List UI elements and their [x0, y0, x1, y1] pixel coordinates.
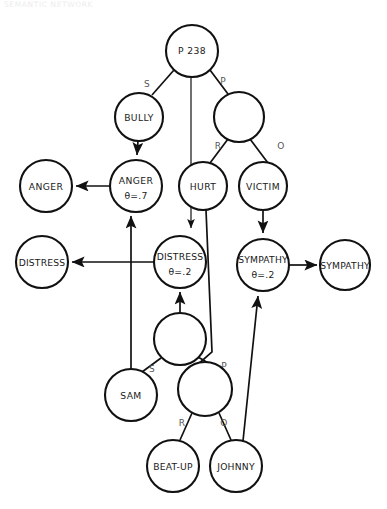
edge-bully-anger: [137, 141, 138, 155]
node-anger-left[interactable]: ANGER: [20, 160, 72, 212]
edge-label-root-p: P: [220, 76, 226, 86]
node-beatup[interactable]: BEAT-UP: [147, 440, 199, 492]
node-anger-theta-label: ANGER: [119, 175, 154, 186]
node-sympathy-theta[interactable]: SYMPATHY θ=.2: [237, 239, 289, 291]
node-anger-theta-circle[interactable]: [110, 160, 162, 212]
node-johnny[interactable]: JOHNNY: [210, 440, 262, 492]
node-bully[interactable]: BULLY: [115, 93, 163, 141]
edge-label-prop3-o: O: [220, 418, 227, 428]
node-anger-theta-sub: θ=.7: [125, 190, 148, 201]
node-hurt[interactable]: HURT: [179, 162, 227, 210]
node-prop3[interactable]: [178, 362, 232, 416]
node-beatup-label: BEAT-UP: [153, 461, 193, 472]
node-anger-left-label: ANGER: [29, 181, 64, 192]
node-distress-theta-sub: θ=.2: [169, 266, 192, 277]
node-victim-label: VICTIM: [246, 181, 280, 192]
node-distress-left-label: DISTRESS: [19, 257, 66, 268]
node-prop1-circle[interactable]: [214, 92, 264, 142]
node-root-label: P 238: [178, 45, 206, 56]
node-distress-left[interactable]: DISTRESS: [16, 236, 68, 288]
node-layer: P 238 BULLY ANGER ANGER θ=.7 HURT: [16, 25, 370, 492]
edge-root-bully: [152, 70, 174, 95]
node-johnny-label: JOHNNY: [216, 461, 255, 472]
node-sympathy-right[interactable]: SYMPATHY: [320, 240, 370, 290]
node-prop2-circle[interactable]: [154, 313, 206, 365]
edge-johnny-sympathy: [243, 296, 258, 441]
node-sam[interactable]: SAM: [105, 369, 157, 421]
node-sympathy-theta-circle[interactable]: [237, 239, 289, 291]
node-sympathy-theta-sub: θ=.2: [252, 269, 275, 280]
node-sam-label: SAM: [120, 390, 141, 401]
edge-label-prop2-s: S: [149, 364, 155, 374]
node-anger-theta[interactable]: ANGER θ=.7: [110, 160, 162, 212]
edge-label-root-s: S: [144, 79, 150, 89]
node-bully-label: BULLY: [124, 112, 154, 123]
node-distress-theta[interactable]: DISTRESS θ=.2: [154, 236, 206, 288]
node-hurt-label: HURT: [190, 181, 217, 192]
edge-prop1-victim: [250, 139, 268, 163]
edge-label-prop1-r: R: [215, 141, 222, 151]
node-victim[interactable]: VICTIM: [239, 162, 287, 210]
edge-label-prop3-r: R: [179, 418, 186, 428]
node-root[interactable]: P 238: [166, 25, 218, 77]
node-distress-theta-circle[interactable]: [154, 236, 206, 288]
node-sympathy-theta-label: SYMPATHY: [238, 254, 288, 265]
node-prop1[interactable]: [214, 92, 264, 142]
node-sympathy-right-label: SYMPATHY: [320, 260, 370, 271]
node-prop2[interactable]: [154, 313, 206, 365]
semantic-network-diagram: S P R O S P R O P 238 BULLY ANGER: [0, 0, 387, 509]
node-distress-theta-label: DISTRESS: [157, 251, 204, 262]
edge-label-prop1-o: O: [277, 141, 284, 151]
node-prop3-circle[interactable]: [178, 362, 232, 416]
